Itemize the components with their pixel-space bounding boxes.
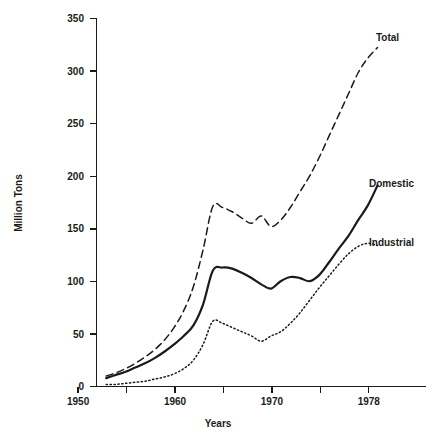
line-chart: 350 300 250 200 150 100 50 0 1950 1960 1… xyxy=(0,0,436,437)
y-tick-label: 200 xyxy=(67,171,84,182)
y-tick-label: 50 xyxy=(73,329,85,340)
y-tick-label: 150 xyxy=(67,223,84,234)
x-tick-label: 1960 xyxy=(164,396,187,407)
chart-container: 350 300 250 200 150 100 50 0 1950 1960 1… xyxy=(0,0,436,437)
y-axis-ticks xyxy=(90,19,96,387)
y-tick-label: 0 xyxy=(78,381,84,392)
x-axis-ticks xyxy=(78,387,369,394)
series-label-total: Total xyxy=(376,32,399,43)
x-tick-label: 1950 xyxy=(67,396,90,407)
y-axis-title: Million Tons xyxy=(13,174,24,232)
y-tick-label: 300 xyxy=(67,66,84,77)
x-axis-title: Years xyxy=(205,418,232,429)
series-line-total xyxy=(106,47,377,375)
y-axis-tick-labels: 350 300 250 200 150 100 50 0 xyxy=(67,13,84,392)
series-label-domestic: Domestic xyxy=(369,178,414,189)
y-tick-label: 100 xyxy=(67,276,84,287)
series-label-industrial: Industrial xyxy=(369,237,414,248)
x-axis-tick-labels: 1950 1960 1970 1978 xyxy=(67,396,380,407)
x-tick-label: 1970 xyxy=(261,396,284,407)
y-tick-label: 250 xyxy=(67,118,84,129)
series-line-domestic xyxy=(106,185,377,378)
x-tick-label: 1978 xyxy=(358,396,381,407)
y-tick-label: 350 xyxy=(67,13,84,24)
